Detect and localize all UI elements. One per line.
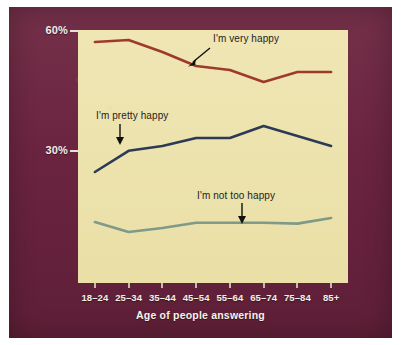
x-axis-tick-5 [263,283,265,288]
y-axis-tick-60 [70,30,78,32]
annotation-very-happy: I'm very happy [213,33,279,44]
x-axis-label-7: 85+ [309,292,353,303]
x-axis-tick-2 [161,283,163,288]
x-axis-tick-0 [94,283,96,288]
arrow-icon-very-happy [186,46,212,68]
x-axis-tick-1 [128,283,130,288]
x-axis-tick-7 [330,283,332,288]
arrow-icon-not-too-happy [236,203,248,225]
x-axis-tick-4 [229,283,231,288]
series-line-1 [95,126,331,172]
x-axis-tick-6 [296,283,298,288]
y-axis-label-30: 30% [24,144,68,156]
chart-figure: 60% 30% 18–2425–3435–4445–5455–6465–7475… [0,0,401,345]
y-axis-tick-30 [70,150,78,152]
annotation-pretty-happy: I'm pretty happy [96,110,168,121]
annotation-not-too-happy: I'm not too happy [197,190,275,201]
plot-area [78,30,348,283]
series-line-0 [95,40,331,82]
arrow-icon-pretty-happy [114,124,126,146]
x-axis-title: Age of people answering [0,309,401,321]
y-axis-label-60: 60% [24,24,68,36]
x-axis-tick-3 [195,283,197,288]
series-line-2 [95,218,331,232]
series-lines [78,30,348,283]
